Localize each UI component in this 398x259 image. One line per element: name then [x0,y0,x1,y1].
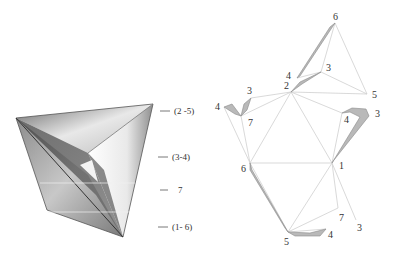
vertex-label-4-bottom: 4 [328,229,333,240]
unfolded-net-figure: 6 4 3 2 5 3 4 7 4 3 6 1 7 3 4 5 [205,0,398,259]
label-2-5: (2 -5) [174,106,194,116]
vertex-label-6-top: 6 [333,11,338,22]
net-diagram: 6 4 3 2 5 3 4 7 4 3 6 1 7 3 4 5 [205,0,398,259]
vertex-label-3-top: 3 [326,62,331,73]
vertex-label-6-left: 6 [241,163,246,174]
flap-5-4 [288,229,326,236]
vertex-label-3-right: 3 [375,108,380,119]
vertex-label-4-right: 4 [344,114,349,125]
label-7: 7 [178,185,183,195]
vertex-label-1: 1 [339,160,344,171]
vertex-label-5-right: 5 [372,89,377,100]
polyhedron-render: (2 -5) (3-4) 7 (1- 6) [0,0,205,259]
label-3-4: (3-4) [172,152,190,162]
vertex-label-3-bottom: 3 [357,222,362,233]
flap-left-4-7 [224,104,241,116]
flap-2-3 [291,72,321,92]
vertex-label-7-left: 7 [248,117,253,128]
net-flaps [224,23,369,236]
label-1-6: (1- 6) [172,222,192,232]
folded-polyhedron-figure: (2 -5) (3-4) 7 (1- 6) [0,0,205,259]
vertex-label-2: 2 [284,80,289,91]
net-edges [224,23,367,232]
vertex-label-4-left: 4 [215,101,220,112]
vertex-label-5-bottom: 5 [284,236,289,247]
vertex-label-3-left: 3 [247,85,252,96]
vertex-label-7-bottom: 7 [339,212,344,223]
